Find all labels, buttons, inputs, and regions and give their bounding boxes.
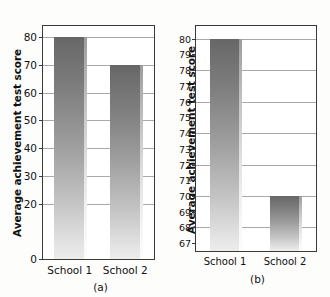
plot-area-b: 6768697071727374757677787980 xyxy=(195,25,317,252)
plot-area-a: 020304050607080 xyxy=(42,25,155,260)
y-tick-label: 20 xyxy=(24,198,37,210)
y-tick-label: 30 xyxy=(24,170,37,182)
x-tick-label: School 2 xyxy=(264,256,307,267)
y-tick-label: 67 xyxy=(179,238,191,249)
chart-panel-a: Average achievement test score 020304050… xyxy=(0,0,165,297)
y-tick-label: 76 xyxy=(179,96,191,107)
y-tick-label: 72 xyxy=(179,159,191,170)
x-tick-label: School 1 xyxy=(47,264,92,276)
figure-container: Average achievement test score 020304050… xyxy=(0,0,330,297)
y-tick-mark xyxy=(192,39,196,40)
y-tick-mark xyxy=(39,93,43,94)
x-tick-label: School 2 xyxy=(103,264,148,276)
panel-caption-a: (a) xyxy=(18,281,183,293)
y-tick-label: 60 xyxy=(24,87,37,99)
y-axis-title-a: Average achievement test score xyxy=(11,43,23,243)
y-tick-label: 79 xyxy=(179,49,191,60)
y-tick-mark xyxy=(192,86,196,87)
y-tick-label: 0 xyxy=(30,253,37,265)
y-tick-mark xyxy=(39,65,43,66)
y-tick-mark xyxy=(192,227,196,228)
y-tick-mark xyxy=(192,70,196,71)
y-tick-label: 68 xyxy=(179,222,191,233)
y-tick-label: 75 xyxy=(179,112,191,123)
y-tick-mark xyxy=(192,133,196,134)
y-tick-label: 80 xyxy=(179,33,191,44)
y-tick-mark xyxy=(192,180,196,181)
y-tick-label: 74 xyxy=(179,128,191,139)
bar xyxy=(54,37,87,259)
y-tick-label: 80 xyxy=(24,31,37,43)
y-tick-mark xyxy=(39,204,43,205)
y-tick-mark xyxy=(192,54,196,55)
y-tick-mark xyxy=(39,120,43,121)
panel-caption-b: (b) xyxy=(175,273,330,285)
y-tick-label: 69 xyxy=(179,206,191,217)
y-tick-mark xyxy=(192,149,196,150)
y-tick-mark xyxy=(192,212,196,213)
y-tick-label: 50 xyxy=(24,114,37,126)
y-tick-mark xyxy=(192,196,196,197)
y-tick-label: 70 xyxy=(24,59,37,71)
bar xyxy=(210,39,241,251)
y-tick-mark xyxy=(39,259,43,260)
y-tick-label: 70 xyxy=(179,190,191,201)
y-tick-mark xyxy=(192,117,196,118)
chart-panel-b: Average achievement test score 676869707… xyxy=(165,0,330,297)
bar xyxy=(110,65,143,259)
y-tick-mark xyxy=(192,243,196,244)
y-tick-label: 77 xyxy=(179,80,191,91)
y-tick-label: 73 xyxy=(179,143,191,154)
y-tick-mark xyxy=(39,37,43,38)
y-tick-label: 78 xyxy=(179,65,191,76)
y-tick-mark xyxy=(39,148,43,149)
y-tick-mark xyxy=(192,102,196,103)
bar xyxy=(270,196,301,251)
y-tick-label: 40 xyxy=(24,142,37,154)
y-tick-label: 71 xyxy=(179,175,191,186)
y-tick-mark xyxy=(39,176,43,177)
x-tick-label: School 1 xyxy=(204,256,247,267)
y-tick-mark xyxy=(192,165,196,166)
